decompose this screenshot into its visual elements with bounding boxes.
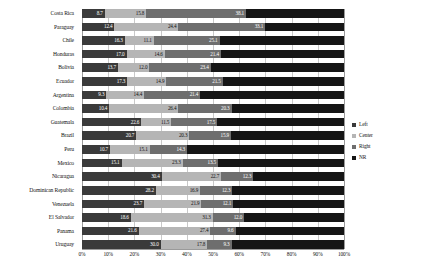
- bar-rows: 8.715.838.112.424.433.116.311.125.117.01…: [82, 9, 344, 249]
- bar-segment-left: 15.1: [82, 159, 122, 168]
- bar-row: 17.014.621.4: [82, 50, 344, 59]
- category-label: Mexico: [0, 159, 78, 168]
- bar-value-label: 17.5: [207, 120, 215, 125]
- bar-value-label: 12.0: [234, 215, 242, 220]
- legend-item[interactable]: Right: [352, 141, 422, 152]
- bar-value-label: 10.7: [100, 147, 108, 152]
- category-label: Argentina: [0, 91, 78, 100]
- bar-segment-right: 21.4: [144, 91, 200, 100]
- bar-value-label: 23.4: [200, 65, 208, 70]
- category-label: Paraguay: [0, 23, 78, 32]
- bar-value-label: 11.1: [143, 38, 151, 43]
- bar-value-label: 12.1: [223, 201, 231, 206]
- bar-segment-right: 20.3: [178, 104, 231, 113]
- bar-value-label: 21.4: [210, 52, 218, 57]
- bar-segment-left: 30.0: [82, 240, 161, 249]
- x-tick-label: 60%: [234, 252, 244, 257]
- bar-segment-center: 26.4: [109, 104, 178, 113]
- bar-value-label: 9.3: [224, 242, 230, 247]
- category-label: Dominican Republic: [0, 186, 78, 195]
- legend-label: NR: [359, 155, 366, 160]
- legend-swatch-icon: [352, 156, 356, 160]
- legend-swatch-icon: [352, 123, 356, 127]
- bar-segment-right: 9.6: [210, 227, 235, 236]
- bar-segment-right: 38.1: [146, 9, 246, 18]
- bar-segment-left: 28.2: [82, 186, 156, 195]
- bar-value-label: 14.4: [134, 92, 142, 97]
- bar-value-label: 13.5: [207, 160, 215, 165]
- bar-value-label: 24.4: [168, 24, 176, 29]
- x-tick-label: 30%: [156, 252, 166, 257]
- legend-swatch-icon: [352, 145, 356, 149]
- x-tick-label: 0%: [79, 252, 86, 257]
- x-tick-label: 70%: [261, 252, 271, 257]
- legend-item[interactable]: Left: [352, 119, 422, 130]
- category-label: Uruguay: [0, 240, 78, 249]
- bar-value-label: 8.7: [97, 11, 103, 16]
- legend-item[interactable]: NR: [352, 152, 422, 163]
- bar-segment-right: 15.9: [189, 131, 231, 140]
- bar-segment-left: 30.4: [82, 172, 162, 181]
- bar-segment-center: 22.7: [162, 172, 221, 181]
- bar-row: 30.017.89.3: [82, 240, 344, 249]
- bar-value-label: 27.4: [200, 228, 208, 233]
- bar-segment-nr: [211, 63, 344, 72]
- bar-segment-center: 27.4: [139, 227, 211, 236]
- bar-value-label: 25.1: [209, 38, 217, 43]
- category-label: El Salvador: [0, 213, 78, 222]
- bar-value-label: 12.0: [139, 65, 147, 70]
- bar-segment-center: 31.3: [131, 213, 213, 222]
- bar-value-label: 28.2: [145, 188, 153, 193]
- bar-value-label: 13.7: [107, 65, 115, 70]
- bar-segment-right: 33.1: [178, 23, 265, 32]
- bar-segment-nr: [265, 23, 344, 32]
- bar-segment-left: 12.4: [82, 23, 114, 32]
- bar-segment-right: 12.3: [200, 186, 232, 195]
- bar-value-label: 23.3: [172, 160, 180, 165]
- bar-segment-nr: [187, 145, 344, 154]
- bar-segment-nr: [218, 159, 344, 168]
- bar-segment-nr: [200, 91, 344, 100]
- bar-segment-center: 11.5: [141, 118, 171, 127]
- bar-segment-right: 17.5: [171, 118, 217, 127]
- category-label: Panama: [0, 227, 78, 236]
- gridline: [344, 9, 345, 249]
- bar-value-label: 17.3: [117, 79, 125, 84]
- x-axis-line: [82, 249, 344, 250]
- bar-segment-center: 14.9: [127, 77, 166, 86]
- bar-value-label: 17.0: [116, 52, 124, 57]
- bar-value-label: 20.3: [221, 106, 229, 111]
- bar-segment-center: 16.9: [156, 186, 200, 195]
- bar-row: 17.314.921.5: [82, 77, 344, 86]
- bar-segment-right: 21.5: [166, 77, 222, 86]
- x-tick-label: 10%: [103, 252, 113, 257]
- bar-segment-left: 17.0: [82, 50, 127, 59]
- bar-row: 9.314.421.4: [82, 91, 344, 100]
- bar-row: 18.631.312.0: [82, 213, 344, 222]
- bar-segment-left: 21.6: [82, 227, 139, 236]
- category-label: Chile: [0, 36, 78, 45]
- bar-value-label: 10.4: [99, 106, 107, 111]
- bar-value-label: 21.6: [128, 228, 136, 233]
- bar-segment-right: 25.1: [154, 36, 220, 45]
- bar-segment-nr: [253, 172, 344, 181]
- bar-value-label: 21.9: [191, 201, 199, 206]
- bar-value-label: 31.3: [202, 215, 210, 220]
- bar-value-label: 15.1: [139, 147, 147, 152]
- bar-segment-left: 10.4: [82, 104, 109, 113]
- bar-value-label: 20.7: [126, 133, 134, 138]
- bar-value-label: 16.9: [190, 188, 198, 193]
- category-label: Ecuador: [0, 77, 78, 86]
- bar-row: 16.311.125.1: [82, 36, 344, 45]
- bar-value-label: 30.4: [151, 174, 159, 179]
- legend-swatch-icon: [352, 134, 356, 138]
- bar-segment-center: 15.1: [110, 145, 150, 154]
- legend-item[interactable]: Center: [352, 130, 422, 141]
- bar-segment-left: 18.6: [82, 213, 131, 222]
- bar-segment-left: 23.7: [82, 200, 144, 209]
- bar-row: 21.627.49.6: [82, 227, 344, 236]
- bar-segment-nr: [221, 50, 344, 59]
- bar-value-label: 21.4: [190, 92, 198, 97]
- category-label: Guatemala: [0, 118, 78, 127]
- x-tick-label: 90%: [313, 252, 323, 257]
